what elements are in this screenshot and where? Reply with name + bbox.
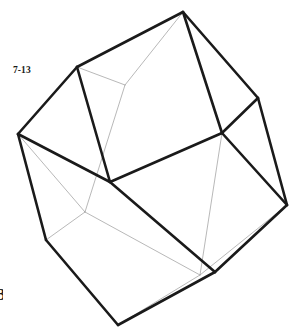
visible-edge (77, 67, 110, 182)
wireframe-cube-drawing (0, 0, 304, 335)
visible-edge (215, 205, 287, 272)
hidden-edge (46, 212, 85, 240)
visible-edge (77, 12, 183, 67)
visible-edge (118, 272, 215, 325)
visible-edge (110, 133, 222, 182)
hidden-edge (85, 85, 125, 212)
figure-canvas: 7-13 3 (0, 0, 304, 335)
visible-edge (222, 98, 258, 133)
hidden-edges-group (18, 12, 287, 325)
visible-edge (110, 182, 215, 272)
hidden-edge (77, 67, 125, 85)
visible-edges-group (18, 12, 287, 325)
page-corner-mark: 3 (0, 286, 3, 306)
visible-edge (18, 134, 110, 182)
hidden-edge (125, 12, 183, 85)
visible-edge (46, 240, 118, 325)
visible-edge (183, 12, 258, 98)
visible-edge (183, 12, 222, 133)
hidden-edge (200, 133, 222, 275)
figure-label: 7-13 (13, 66, 31, 76)
visible-edge (18, 67, 77, 134)
